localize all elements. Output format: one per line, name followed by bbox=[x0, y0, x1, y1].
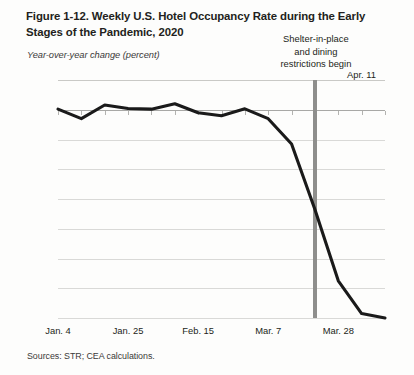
x-axis-tick-label: Mar. 28 bbox=[323, 325, 354, 336]
figure-container: Figure 1-12. Weekly U.S. Hotel Occupancy… bbox=[0, 0, 414, 375]
x-axis-tick-label: Jan. 25 bbox=[113, 325, 144, 336]
series-layer bbox=[58, 80, 385, 318]
gridline--70 bbox=[58, 318, 385, 319]
x-axis-tick-label: Feb. 15 bbox=[182, 325, 214, 336]
plot-area: 100-10-20-30-40-50-60-70Jan. 4Jan. 25Feb… bbox=[58, 80, 385, 318]
annotation-line: restrictions begin bbox=[280, 58, 351, 71]
x-axis-tick-label: Jan. 4 bbox=[45, 325, 71, 336]
source-note: Sources: STR; CEA calculations. bbox=[27, 351, 155, 361]
annotation-line: Shelter-in-place bbox=[280, 33, 351, 46]
y-axis-unit-label: Year-over-year change (percent) bbox=[27, 50, 159, 60]
x-axis-tick-mark bbox=[385, 111, 386, 115]
occupancy-rate-line bbox=[58, 104, 385, 318]
annotation-line: and dining bbox=[280, 46, 351, 59]
x-axis-tick-label: Mar. 7 bbox=[255, 325, 281, 336]
shelter-in-place-annotation: Shelter-in-placeand diningrestrictions b… bbox=[280, 33, 351, 71]
endpoint-date-label: Apr. 11 bbox=[347, 69, 376, 80]
